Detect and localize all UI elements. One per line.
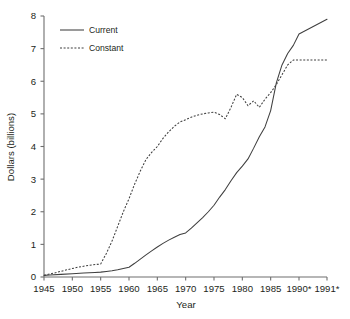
line-chart: 012345678 Dollars (billions) 19451950195… [0,0,350,319]
x-tick-label: 1991* [314,283,339,294]
legend-label-constant: Constant [89,43,124,53]
x-tick-label: 1950 [62,283,83,294]
chart-legend: Current Constant [60,25,124,53]
x-tick-label: 1985 [260,283,281,294]
x-axis-tick-labels: 1945195019551960196519701975198019851990… [33,283,339,294]
x-tick-label: 1980 [232,283,253,294]
y-tick-label: 3 [31,174,36,185]
y-tick-label: 7 [31,43,36,54]
x-tick-label: 1960 [118,283,139,294]
y-tick-label: 0 [31,271,36,282]
x-axis: 1945195019551960196519701975198019851990… [33,277,339,310]
x-axis-title: Year [176,299,196,310]
series-line-constant [44,60,327,275]
x-tick-label: 1955 [90,283,111,294]
x-tick-label: 1990* [286,283,311,294]
y-tick-label: 1 [31,239,36,250]
chart-figure: 012345678 Dollars (billions) 19451950195… [0,0,350,319]
y-tick-label: 4 [31,141,37,152]
y-tick-label: 6 [31,76,36,87]
series-line-current [44,19,327,275]
y-tick-label: 8 [31,10,36,21]
x-tick-label: 1965 [147,283,168,294]
x-tick-label: 1945 [33,283,54,294]
x-tick-label: 1970 [175,283,196,294]
y-axis: 012345678 Dollars (billions) [5,10,44,282]
y-axis-tick-labels: 012345678 [31,10,37,282]
legend-item-constant: Constant [60,43,124,53]
y-tick-label: 5 [31,108,36,119]
x-tick-label: 1975 [203,283,224,294]
y-axis-title: Dollars (billions) [5,113,16,181]
legend-item-current: Current [60,25,118,35]
legend-label-current: Current [89,25,118,35]
y-tick-label: 2 [31,206,36,217]
plot-area [44,19,327,275]
